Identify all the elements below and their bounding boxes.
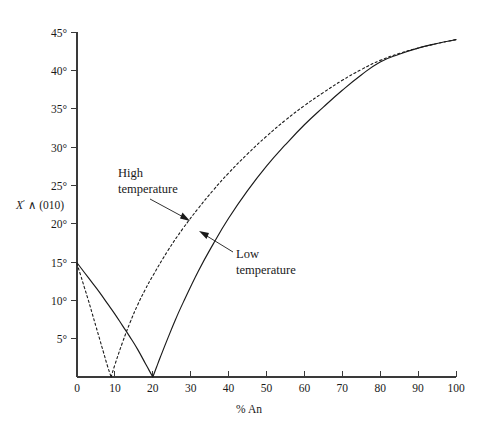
x-tick-label-90: 90 [412, 382, 424, 394]
curve-low-temperature [77, 40, 456, 377]
y-axis-title: X′ ∧ (010) [15, 198, 64, 212]
high-temperature-arrow-icon [180, 213, 190, 222]
y-tick-label-20: 20° [51, 218, 68, 230]
curve-high-temperature [77, 40, 456, 377]
y-tick-label-45: 45° [51, 27, 68, 39]
high-temperature-label-line1: High [118, 166, 144, 180]
chart-figure: 45° 40° 35° 30° 25° 20° 15° 10° 5° X′ ∧ … [0, 0, 487, 430]
x-tick-label-50: 50 [261, 382, 273, 394]
y-tick-label-35: 35° [51, 103, 68, 115]
plot-svg: 45° 40° 35° 30° 25° 20° 15° 10° 5° X′ ∧ … [0, 0, 487, 430]
y-tick-label-5: 5° [57, 333, 68, 345]
y-tick-label-15: 15° [51, 257, 68, 269]
y-tick-label-25: 25° [51, 180, 68, 192]
low-temperature-label-line1: Low [236, 247, 259, 261]
x-axis-ticks [77, 371, 456, 377]
x-tick-label-30: 30 [185, 382, 197, 394]
x-tick-label-70: 70 [337, 382, 349, 394]
y-tick-label-40: 40° [51, 65, 68, 77]
y-tick-label-30: 30° [51, 142, 68, 154]
y-axis-ticks [71, 32, 77, 339]
high-temperature-label-line2: temperature [118, 182, 178, 196]
x-tick-label-80: 80 [374, 382, 386, 394]
x-tick-label-100: 100 [447, 382, 465, 394]
x-axis-title: % An [236, 403, 262, 415]
low-temperature-label-line2: temperature [236, 263, 296, 277]
y-tick-label-10: 10° [51, 295, 68, 307]
y-axis-title-rest: ∧ (010) [25, 199, 64, 212]
x-tick-label-40: 40 [223, 382, 235, 394]
x-tick-label-10: 10 [109, 382, 121, 394]
x-tick-label-60: 60 [299, 382, 311, 394]
low-temperature-arrow-icon [199, 231, 209, 239]
x-tick-label-20: 20 [147, 382, 159, 394]
x-tick-label-0: 0 [74, 382, 80, 394]
